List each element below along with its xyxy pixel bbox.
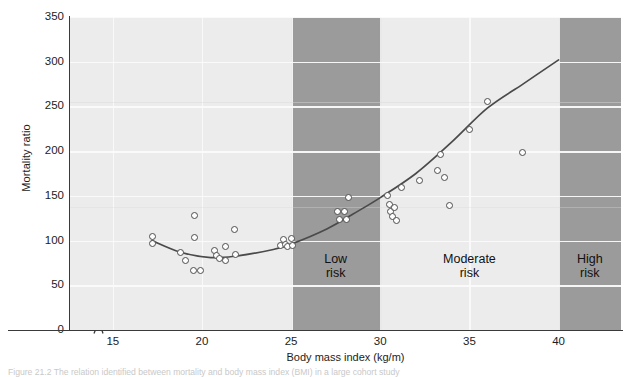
risk-label-high-risk: Highrisk	[577, 252, 603, 280]
x-tick-label-40: 40	[539, 336, 579, 348]
data-point	[289, 242, 296, 249]
data-point	[519, 149, 526, 156]
data-point	[177, 249, 184, 256]
data-point	[343, 216, 350, 223]
risk-label-line2: risk	[324, 266, 347, 280]
y-tick-label-300: 300	[24, 56, 64, 68]
data-point	[341, 208, 348, 215]
y-tick-label-50: 50	[24, 279, 64, 291]
data-point	[222, 243, 229, 250]
data-point	[345, 194, 352, 201]
x-tick-label-35: 35	[449, 336, 489, 348]
x-axis-title: Body mass index (kg/m)	[70, 351, 621, 363]
y-tick-label-100: 100	[24, 235, 64, 247]
fitted-curve-layer	[70, 17, 621, 330]
y-axis-tick-labels: 050100150200250300350	[22, 0, 64, 376]
y-tick-label-350: 350	[24, 11, 64, 23]
data-point	[484, 98, 491, 105]
risk-label-line2: risk	[443, 266, 496, 280]
plot-area: LowriskModerateriskHighrisk	[70, 17, 621, 330]
y-tick-label-250: 250	[24, 100, 64, 112]
data-point	[190, 267, 197, 274]
risk-label-moderate-risk: Moderaterisk	[443, 252, 496, 280]
y-tick-label-200: 200	[24, 145, 64, 157]
data-point	[231, 226, 238, 233]
risk-label-line1: High	[577, 252, 603, 266]
data-point	[149, 240, 156, 247]
data-point	[222, 257, 229, 264]
figure-caption: Figure 21.2 The relation identified betw…	[8, 367, 628, 377]
risk-label-low-risk: Lowrisk	[324, 252, 347, 280]
x-tick-label-30: 30	[360, 336, 400, 348]
y-tick-label-150: 150	[24, 190, 64, 202]
x-tick-label-25: 25	[271, 336, 311, 348]
data-point	[336, 216, 343, 223]
x-tick-label-20: 20	[182, 336, 222, 348]
risk-label-line1: Low	[324, 252, 347, 266]
data-point	[334, 208, 341, 215]
risk-label-line1: Moderate	[443, 252, 496, 266]
x-tick-label-15: 15	[93, 336, 133, 348]
data-point	[391, 204, 398, 211]
data-point	[197, 267, 204, 274]
risk-label-line2: risk	[577, 266, 603, 280]
fitted-curve	[152, 60, 559, 258]
